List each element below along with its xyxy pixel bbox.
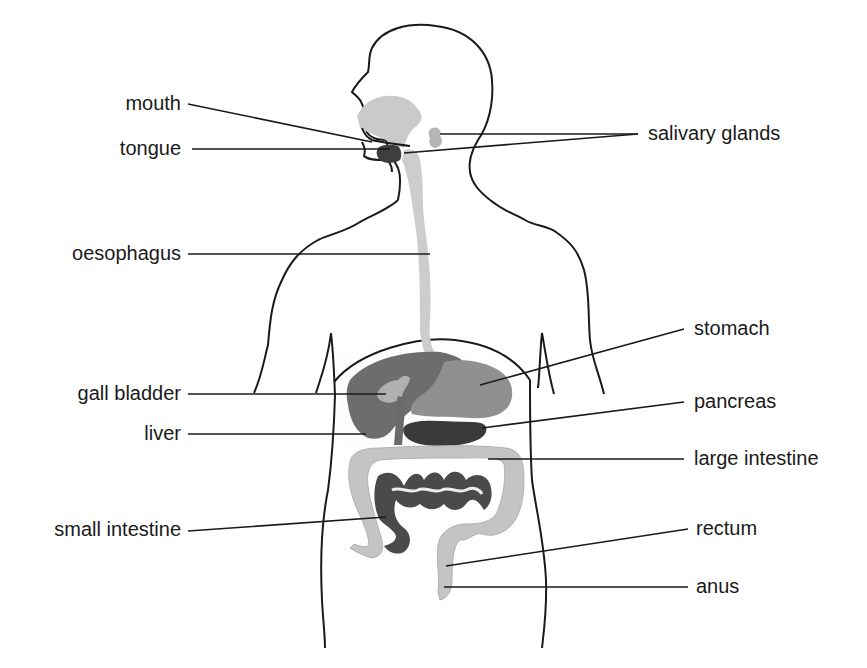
label-rectum: rectum xyxy=(696,517,757,539)
small-intestine-shape xyxy=(374,472,491,554)
salivary-gland-shape xyxy=(429,127,442,148)
label-stomach: stomach xyxy=(694,317,770,339)
label-tongue: tongue xyxy=(120,137,181,159)
tongue-shape xyxy=(377,145,402,163)
label-mouth: mouth xyxy=(125,92,181,114)
label-salivary-glands: salivary glands xyxy=(648,122,780,144)
label-anus: anus xyxy=(696,575,739,597)
leader-mouth xyxy=(188,104,372,142)
label-large-intestine: large intestine xyxy=(694,447,819,469)
leader-lines-left xyxy=(188,104,430,531)
right-armpit-outline xyxy=(538,333,554,394)
pancreas-shape xyxy=(403,421,486,446)
digestive-system-diagram: mouth tongue oesophagus gall bladder liv… xyxy=(0,0,867,668)
leader-small-intestine xyxy=(188,517,386,531)
label-oesophagus: oesophagus xyxy=(72,242,181,264)
left-armpit-outline xyxy=(316,333,335,395)
label-pancreas: pancreas xyxy=(694,390,776,412)
large-intestine-shape xyxy=(349,446,524,600)
label-gall-bladder: gall bladder xyxy=(78,382,181,404)
label-small-intestine: small intestine xyxy=(54,518,181,540)
oesophagus-shape xyxy=(402,149,444,368)
leader-stomach xyxy=(480,329,684,385)
label-liver: liver xyxy=(144,422,181,444)
leader-pancreas xyxy=(482,402,684,428)
